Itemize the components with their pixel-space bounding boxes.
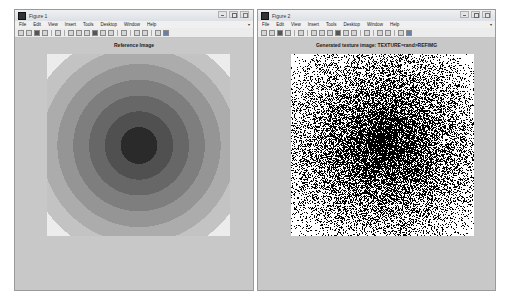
open-file-icon[interactable]: [269, 30, 275, 36]
brush-icon[interactable]: [351, 30, 357, 36]
menu-edit[interactable]: Edit: [33, 22, 41, 27]
close-button[interactable]: [482, 11, 491, 18]
generated-texture-image: [291, 54, 474, 236]
new-figure-icon[interactable]: [18, 30, 24, 36]
toolbar-separator: [117, 30, 118, 36]
toolbar-separator: [130, 30, 131, 36]
rotate-3d-icon[interactable]: [92, 30, 98, 36]
zoom-out-icon[interactable]: [319, 30, 325, 36]
print-icon[interactable]: [285, 30, 291, 36]
minimize-button[interactable]: [218, 11, 227, 18]
edit-plot-icon[interactable]: [55, 30, 61, 36]
colorbar-icon[interactable]: [134, 30, 140, 36]
plot-title: Reference Image: [15, 42, 253, 48]
menu-file[interactable]: File: [262, 22, 269, 27]
menu-edit[interactable]: Edit: [276, 22, 284, 27]
legend-icon[interactable]: [142, 30, 148, 36]
open-file-icon[interactable]: [26, 30, 32, 36]
figure-1-window: Figure 1 File Edit View Insert Tools Des…: [14, 9, 254, 291]
toolbar-separator: [51, 30, 52, 36]
hide-plot-tools-icon[interactable]: [398, 30, 404, 36]
texture-image-axes[interactable]: [291, 54, 474, 236]
edit-plot-icon[interactable]: [298, 30, 304, 36]
toolbar-separator: [151, 30, 152, 36]
matlab-figure-icon: [261, 12, 269, 20]
menu-help[interactable]: Help: [147, 22, 156, 27]
menu-bar: File Edit View Insert Tools Desktop Wind…: [15, 21, 253, 28]
menu-view[interactable]: View: [48, 22, 58, 27]
toolbar-separator: [373, 30, 374, 36]
link-plot-icon[interactable]: [364, 30, 370, 36]
maximize-button[interactable]: [471, 11, 480, 18]
save-icon[interactable]: [34, 30, 40, 36]
menu-bar: File Edit View Insert Tools Desktop Wind…: [258, 21, 495, 28]
menu-insert[interactable]: Insert: [308, 22, 319, 27]
menu-desktop[interactable]: Desktop: [344, 22, 361, 27]
window-title: Figure 1: [29, 13, 47, 19]
toolbar-separator: [307, 30, 308, 36]
data-cursor-icon[interactable]: [100, 30, 106, 36]
zoom-in-icon[interactable]: [311, 30, 317, 36]
legend-icon[interactable]: [385, 30, 391, 36]
figure-2-window: Figure 2 File Edit View Insert Tools Des…: [257, 9, 496, 291]
toolbar-separator: [360, 30, 361, 36]
maximize-button[interactable]: [229, 11, 238, 18]
link-plot-icon[interactable]: [121, 30, 127, 36]
zoom-out-icon[interactable]: [76, 30, 82, 36]
reference-image: [47, 54, 230, 236]
zoom-in-icon[interactable]: [68, 30, 74, 36]
reference-image-axes[interactable]: [47, 54, 230, 236]
menu-tools[interactable]: Tools: [326, 22, 337, 27]
menu-desktop[interactable]: Desktop: [101, 22, 118, 27]
dock-arrow-icon[interactable]: ▾: [490, 22, 492, 27]
data-cursor-icon[interactable]: [343, 30, 349, 36]
minimize-button[interactable]: [460, 11, 469, 18]
figure-toolbar: [15, 28, 253, 38]
title-bar[interactable]: Figure 2: [258, 10, 495, 21]
matlab-figure-icon: [18, 12, 26, 20]
menu-help[interactable]: Help: [390, 22, 399, 27]
toolbar-separator: [394, 30, 395, 36]
menu-window[interactable]: Window: [367, 22, 383, 27]
toolbar-separator: [64, 30, 65, 36]
menu-file[interactable]: File: [19, 22, 26, 27]
brush-icon[interactable]: [108, 30, 114, 36]
toolbar-separator: [294, 30, 295, 36]
plot-title: Generated texture image: TEXTURE=rand>RE…: [258, 42, 495, 48]
show-plot-tools-icon[interactable]: [406, 30, 412, 36]
new-figure-icon[interactable]: [261, 30, 267, 36]
menu-view[interactable]: View: [291, 22, 301, 27]
menu-window[interactable]: Window: [124, 22, 140, 27]
show-plot-tools-icon[interactable]: [163, 30, 169, 36]
figure-toolbar: [258, 28, 495, 38]
rotate-3d-icon[interactable]: [335, 30, 341, 36]
menu-tools[interactable]: Tools: [83, 22, 94, 27]
pan-icon[interactable]: [84, 30, 90, 36]
close-button[interactable]: [240, 11, 249, 18]
save-icon[interactable]: [277, 30, 283, 36]
title-bar[interactable]: Figure 1: [15, 10, 253, 21]
hide-plot-tools-icon[interactable]: [155, 30, 161, 36]
dock-arrow-icon[interactable]: ▾: [248, 22, 250, 27]
pan-icon[interactable]: [327, 30, 333, 36]
window-title: Figure 2: [272, 13, 290, 19]
print-icon[interactable]: [42, 30, 48, 36]
menu-insert[interactable]: Insert: [65, 22, 76, 27]
colorbar-icon[interactable]: [377, 30, 383, 36]
